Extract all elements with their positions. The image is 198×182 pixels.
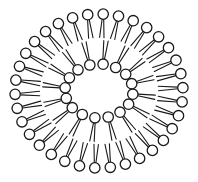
- inner-lipid-tail: [90, 123, 94, 141]
- outer-lipid-head: [21, 48, 31, 58]
- outer-lipid-head: [153, 32, 163, 42]
- inner-lipid-tail: [105, 41, 109, 59]
- outer-lipid-head: [34, 140, 44, 150]
- outer-lipid-tail: [158, 101, 177, 102]
- inner-lipid-head: [64, 73, 74, 83]
- outer-lipid-tail: [74, 23, 79, 41]
- outer-lipid-tail: [158, 86, 177, 87]
- outer-lipid-head: [163, 43, 173, 53]
- outer-lipid-head: [40, 26, 50, 36]
- outer-lipid-head: [46, 149, 56, 159]
- liposome-diagram: [0, 0, 198, 182]
- outer-lipid-head: [90, 163, 100, 173]
- inner-lipid-head: [60, 83, 70, 93]
- outer-lipid-head: [24, 129, 34, 139]
- outer-lipid-head: [98, 9, 108, 19]
- outer-lipid-tail: [116, 142, 123, 159]
- outer-lipid-tail: [109, 144, 110, 162]
- inner-lipid-head: [73, 65, 83, 75]
- inner-lipid-tail: [94, 123, 95, 141]
- outer-lipid-head: [29, 36, 39, 46]
- inner-lipid-head: [77, 109, 87, 119]
- outer-lipid-tail: [89, 20, 93, 38]
- outer-lipid-head: [128, 16, 138, 26]
- outer-lipid-head: [11, 75, 21, 85]
- inner-lipid-head: [90, 113, 100, 123]
- outer-lipid-head: [17, 117, 27, 127]
- outer-lipid-head: [10, 89, 20, 99]
- outer-lipid-head: [158, 135, 168, 145]
- outer-lipid-head: [53, 18, 63, 28]
- outer-lipid-head: [176, 69, 186, 79]
- inner-lipid-head: [67, 103, 77, 113]
- outer-lipid-tail: [20, 91, 39, 93]
- outer-lipid-tail: [88, 20, 89, 38]
- inner-lipid-tail: [138, 94, 155, 95]
- outer-lipid-tail: [120, 141, 125, 159]
- inner-lipid-tail: [103, 41, 104, 59]
- inner-lipid-head: [98, 59, 108, 69]
- inner-lipid-tail: [43, 83, 60, 87]
- outer-lipid-tail: [21, 82, 40, 86]
- outer-lipid-head: [171, 55, 181, 65]
- outer-lipid-tail: [96, 145, 99, 163]
- outer-lipid-head: [113, 11, 123, 21]
- outer-lipid-head: [60, 156, 70, 166]
- outer-lipid-tail: [100, 19, 103, 37]
- inner-lipid-head: [123, 99, 133, 109]
- lipid-tails: [20, 19, 178, 163]
- outer-lipid-head: [83, 10, 93, 20]
- inner-lipid-head: [128, 89, 138, 99]
- inner-lipid-head: [61, 93, 71, 103]
- outer-lipid-head: [173, 111, 183, 121]
- inner-lipid-head: [85, 60, 95, 70]
- inner-lipid-head: [111, 62, 121, 72]
- outer-lipid-tail: [158, 96, 177, 100]
- outer-lipid-head: [147, 145, 157, 155]
- inner-lipid-tail: [43, 87, 60, 88]
- outer-lipid-head: [105, 162, 115, 172]
- outer-lipid-tail: [20, 95, 39, 96]
- outer-lipid-head: [14, 61, 24, 71]
- outer-lipid-head: [178, 83, 188, 93]
- inner-lipid-head: [121, 69, 131, 79]
- outer-lipid-head: [134, 153, 144, 163]
- inner-lipid-head: [127, 79, 137, 89]
- outer-lipid-head: [74, 161, 84, 171]
- outer-lipid-head: [67, 13, 77, 23]
- outer-lipid-head: [142, 22, 152, 32]
- outer-lipid-head: [120, 159, 130, 169]
- inner-lipid-tail: [138, 96, 155, 100]
- outer-lipid-tail: [75, 23, 82, 40]
- outer-lipid-head: [12, 103, 22, 113]
- outer-lipid-head: [177, 97, 187, 107]
- outer-lipid-head: [167, 124, 177, 134]
- outer-lipid-tail: [105, 144, 109, 162]
- outer-lipid-tail: [159, 89, 178, 91]
- inner-lipid-head: [115, 107, 125, 117]
- lipid-heads: [10, 9, 188, 173]
- outer-lipid-tail: [21, 80, 40, 81]
- inner-lipid-head: [103, 112, 113, 122]
